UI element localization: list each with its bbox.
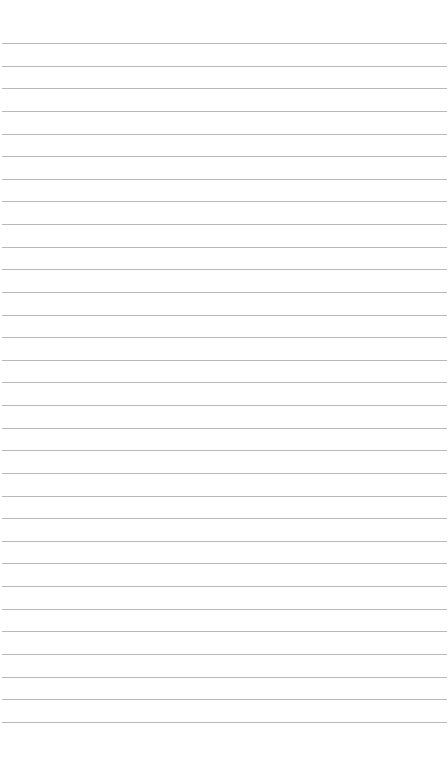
ruled-line [2, 473, 447, 474]
ruled-line [2, 88, 447, 89]
ruled-line [2, 247, 447, 248]
ruled-line [2, 382, 447, 383]
ruled-line [2, 360, 447, 361]
ruled-line [2, 179, 447, 180]
ruled-line [2, 450, 447, 451]
ruled-line [2, 134, 447, 135]
ruled-line [2, 66, 447, 67]
ruled-line [2, 156, 447, 157]
ruled-line [2, 337, 447, 338]
ruled-line [2, 609, 447, 610]
ruled-line [2, 496, 447, 497]
ruled-line [2, 677, 447, 678]
ruled-line [2, 315, 447, 316]
ruled-line [2, 631, 447, 632]
ruled-line [2, 563, 447, 564]
ruled-line [2, 201, 447, 202]
lined-paper-page [0, 0, 448, 781]
ruled-line [2, 428, 447, 429]
ruled-line [2, 111, 447, 112]
ruled-line [2, 405, 447, 406]
ruled-line [2, 269, 447, 270]
ruled-line [2, 586, 447, 587]
ruled-line [2, 43, 447, 44]
ruled-line [2, 541, 447, 542]
ruled-line [2, 292, 447, 293]
ruled-line [2, 224, 447, 225]
ruled-line [2, 699, 447, 700]
ruled-line [2, 722, 447, 723]
ruled-line [2, 518, 447, 519]
ruled-line [2, 654, 447, 655]
